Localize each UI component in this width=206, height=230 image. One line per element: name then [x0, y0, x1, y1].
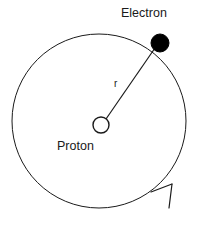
proton-label: Proton	[57, 139, 94, 153]
diagram-canvas: Electron Proton r	[0, 0, 206, 230]
proton-marker-icon	[93, 117, 109, 133]
orbit-direction-arrow-icon	[151, 184, 172, 208]
electron-label: Electron	[121, 6, 167, 20]
radius-label: r	[114, 78, 117, 89]
electron-marker-icon	[151, 34, 169, 52]
atom-diagram-svg	[0, 0, 206, 230]
